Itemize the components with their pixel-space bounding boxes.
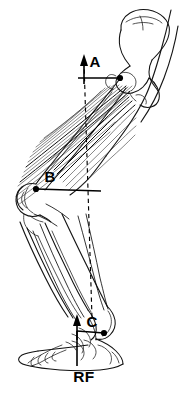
hindlimb-diagram-svg: A B C RF	[0, 0, 180, 396]
hip-joint-dot	[117, 75, 123, 81]
hock-joint-dot	[101, 330, 107, 336]
anatomical-figure: A B C RF	[0, 0, 180, 396]
hip-joint-label: A	[90, 53, 101, 70]
stifle-joint-dot	[33, 186, 39, 192]
hock-joint-label: C	[87, 313, 98, 330]
stifle-joint-label: B	[45, 168, 56, 185]
reaction-force-label: RF	[73, 368, 94, 385]
